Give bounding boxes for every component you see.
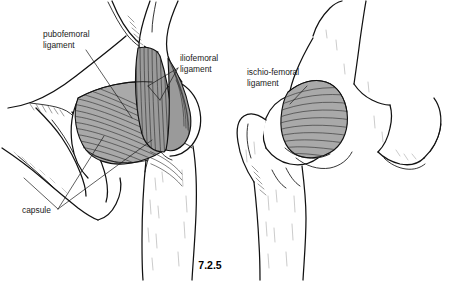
label-ischiofemoral-line1: ischio-femoral bbox=[247, 67, 299, 77]
anatomy-figure: pubofemoral ligament iliofemoral ligamen… bbox=[0, 0, 449, 281]
label-pubofemoral-line1: pubofemoral bbox=[43, 29, 90, 39]
right-greater-trochanter bbox=[237, 114, 266, 182]
right-hip-posterior-view bbox=[237, 1, 441, 280]
right-ilium-posterior-border bbox=[354, 1, 366, 84]
label-ischiofemoral-line2: ligament bbox=[247, 78, 279, 88]
ischial-spine-right bbox=[354, 84, 390, 105]
right-lesser-trochanter bbox=[286, 168, 300, 186]
right-ilium-crest bbox=[313, 1, 342, 36]
ischial-body-right bbox=[378, 105, 392, 152]
right-intertrochanteric-crest bbox=[272, 170, 286, 188]
iliac-crest-contour bbox=[112, 1, 158, 52]
right-femur-shaft-lateral bbox=[254, 182, 260, 280]
figure-number: 7.2.5 bbox=[198, 259, 222, 271]
label-iliofemoral-line2: ligament bbox=[180, 64, 212, 74]
anatomy-illustration: pubofemoral ligament iliofemoral ligamen… bbox=[0, 0, 449, 281]
femur-shaft-lateral bbox=[192, 146, 196, 280]
femoral-neck-inner-line bbox=[152, 2, 156, 32]
right-femur-shaft-medial bbox=[302, 166, 306, 280]
label-pubofemoral-line2: ligament bbox=[43, 40, 75, 50]
femur-shaft-medial bbox=[142, 160, 146, 280]
label-capsule: capsule bbox=[22, 205, 51, 215]
label-iliofemoral-line1: iliofemoral bbox=[180, 53, 218, 63]
